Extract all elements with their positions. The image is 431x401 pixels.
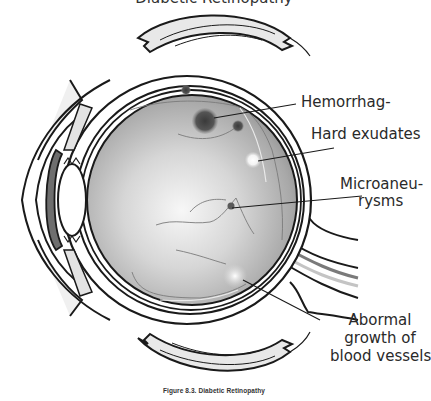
microaneurysm xyxy=(228,203,235,210)
extraocular-muscle-lower xyxy=(138,332,310,371)
label-microaneurysms-2: rysms xyxy=(358,193,403,210)
hemorrhage-medium xyxy=(232,120,244,132)
retina xyxy=(87,95,297,305)
label-hemorrhage: Hemorrhag- xyxy=(301,94,391,111)
hemorrhage-large xyxy=(192,108,218,134)
label-hard-exudates: Hard exudates xyxy=(311,126,421,143)
partial-title-text: Diabetic Retinopathy xyxy=(0,0,428,7)
hemorrhage-small xyxy=(181,85,191,95)
label-abnormal-3: blood vessels xyxy=(330,348,430,365)
hard-exudate xyxy=(245,152,261,168)
lens xyxy=(58,164,86,236)
figure-caption: Figure 8.3. Diabetic Retinopathy xyxy=(0,387,428,394)
label-abnormal-2: growth of xyxy=(335,330,425,347)
extraocular-muscle-upper xyxy=(138,15,310,56)
label-microaneurysms-1: Microaneu- xyxy=(340,176,423,193)
label-abnormal-1: Abormal xyxy=(335,312,425,329)
neovascularization xyxy=(223,264,247,288)
